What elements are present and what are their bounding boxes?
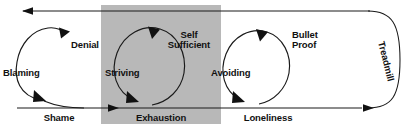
- top-flow-arrowhead: [22, 7, 33, 15]
- treadmill-diagram: Blaming Denial Striving Self Sufficient …: [0, 0, 404, 124]
- loneliness-loop-top-arrowhead: [256, 29, 268, 42]
- loneliness-loop-top-label-line2: Proof: [292, 39, 317, 50]
- exhaustion-loop-left-label: Striving: [105, 67, 140, 78]
- shame-loop-top-label: Denial: [71, 39, 99, 50]
- shame-loop-exit: [44, 101, 84, 108]
- diagram-canvas: Blaming Denial Striving Self Sufficient …: [0, 0, 404, 124]
- treadmill-label: Treadmill: [376, 40, 397, 82]
- shame-loop-path: [16, 28, 66, 100]
- exhaustion-highlight-band: [101, 5, 221, 124]
- shame-loop-left-label: Blaming: [3, 67, 40, 78]
- exhaustion-loop-top-label-line2: Sufficient: [168, 39, 211, 50]
- loneliness-loop-left-label: Avoiding: [211, 67, 251, 78]
- stage-label-loneliness: Loneliness: [244, 112, 293, 123]
- loneliness-loop-bottom-arrowhead: [232, 91, 245, 103]
- shame-loop-top-arrowhead: [59, 28, 70, 39]
- shame-loop-bottom-arrowhead: [33, 90, 46, 102]
- stage-label-exhaustion: Exhaustion: [136, 112, 186, 123]
- stage-label-shame: Shame: [44, 112, 75, 123]
